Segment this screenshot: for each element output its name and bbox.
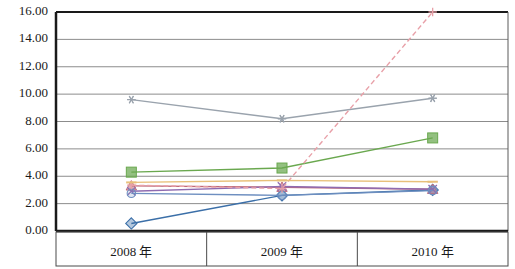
y-axis-tick-label: 8.00 [0, 113, 48, 129]
y-axis-tick-label: 14.00 [0, 30, 48, 46]
y-axis-tick-label: 16.00 [0, 3, 48, 19]
y-axis-tick-label: 4.00 [0, 167, 48, 183]
x-axis-tick-label: 2010 年 [357, 241, 508, 260]
series-series-5 [127, 95, 437, 123]
y-axis-tick-label: 12.00 [0, 58, 48, 74]
gridlines [56, 39, 508, 203]
y-axis-tick-label: 10.00 [0, 85, 48, 101]
y-axis-tick-label: 2.00 [0, 195, 48, 211]
data-point-circle-marker [428, 186, 436, 194]
data-point-diamond-marker [126, 218, 137, 229]
x-axis-tick-label: 2008 年 [56, 241, 207, 260]
y-axis-tick-label: 0.00 [0, 222, 48, 238]
data-point-asterisk-marker [127, 96, 135, 103]
line-chart: 0.002.004.006.008.0010.0012.0014.0016.00… [0, 0, 515, 269]
data-point-circle-marker [127, 189, 135, 197]
data-point-square-marker [277, 163, 287, 173]
series-series-2 [126, 133, 437, 177]
y-axis-tick-label: 6.00 [0, 140, 48, 156]
chart-plot-area [0, 0, 515, 269]
x-axis-tick-label: 2009 年 [207, 241, 358, 260]
data-point-square-marker [126, 167, 136, 177]
data-point-square-marker [428, 133, 438, 143]
data-point-asterisk-marker [428, 95, 436, 102]
